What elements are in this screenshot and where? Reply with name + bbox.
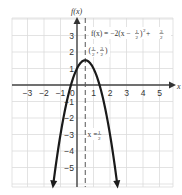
x-tick-label: −2: [39, 88, 49, 98]
y-tick-label: −2: [64, 113, 74, 123]
svg-text:f(x) = −2(x −: f(x) = −2(x −: [91, 29, 131, 38]
y-axis-label: f(x): [71, 7, 82, 16]
y-tick-label: −5: [64, 163, 74, 173]
y-tick-label: 2: [69, 47, 74, 57]
x-axis-arrow-icon: [169, 82, 176, 89]
y-tick-label: 1: [69, 64, 74, 74]
symmetry-label: x = 1 2: [87, 128, 102, 141]
parabola-graph: x f(x) −3−2−1012345 321−1−2−3−4−5 f(x) =…: [0, 0, 182, 195]
x-tick-label: 2: [108, 88, 113, 98]
y-tick-label: 3: [69, 31, 74, 41]
svg-text:,: ,: [97, 46, 99, 55]
x-tick-label: 4: [141, 88, 146, 98]
grid: [12, 18, 173, 187]
vertex-label: ( 1 2 , 3 2 ): [88, 44, 110, 57]
x-axis-label: x: [176, 82, 181, 91]
svg-text:x =: x =: [88, 130, 98, 139]
y-tick-label: −4: [64, 146, 74, 156]
x-tick-label: 1: [91, 88, 96, 98]
y-tick-label: −3: [64, 130, 74, 140]
equation-label: f(x) = −2(x − 1 2 ) 2 + 3 2: [89, 27, 171, 40]
x-tick-label: −3: [23, 88, 33, 98]
x-tick-labels: −3−2−1012345: [23, 88, 162, 98]
x-tick-label: 3: [124, 88, 129, 98]
x-tick-label: 5: [157, 88, 162, 98]
svg-text:+: +: [146, 29, 150, 38]
